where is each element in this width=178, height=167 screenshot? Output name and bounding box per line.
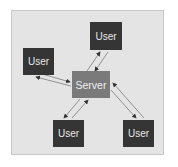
arrow-bottom-left-to-server <box>72 100 88 118</box>
server-label: Server <box>76 79 107 91</box>
user-node-bottom-right: User <box>123 120 154 147</box>
user-node-bottom-left: User <box>53 120 84 147</box>
arrow-server-to-top <box>87 52 100 71</box>
user-node-left: User <box>23 48 54 75</box>
user-node-top: User <box>90 22 122 50</box>
user-label: User <box>95 31 116 42</box>
arrow-server-to-left <box>36 77 71 86</box>
arrow-server-to-bottom-left <box>64 99 80 118</box>
server-node: Server <box>72 71 110 98</box>
user-label: User <box>58 128 79 139</box>
arrow-bottom-right-to-server <box>113 83 144 118</box>
user-label: User <box>128 128 149 139</box>
arrow-top-to-server <box>95 52 108 71</box>
user-label: User <box>28 56 49 67</box>
arrow-left-to-server <box>42 74 70 82</box>
arrow-server-to-bottom-right <box>111 90 136 118</box>
